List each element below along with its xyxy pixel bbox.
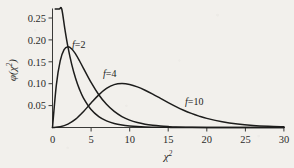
- x-axis-tick-labels: 0 5 10 15 20 25 30: [50, 134, 289, 145]
- x-tick-label: 0: [50, 134, 55, 145]
- y-axis-tick-labels: 0.05 0.10 0.15 0.20 0.25: [28, 13, 46, 112]
- x-tick-label: 10: [124, 134, 135, 145]
- y-tick-label: 0.25: [28, 13, 46, 24]
- curves-group: [53, 8, 284, 128]
- x-axis-title-sup: 2: [169, 149, 173, 158]
- curve-label-f-2-rest: =2: [75, 39, 86, 50]
- chi-square-distribution-figure: 0.05 0.10 0.15 0.20 0.25 0 5 10 15 20 25…: [0, 0, 294, 168]
- curve-label-f-10: f=10: [185, 96, 203, 107]
- y-axis-title-close: ): [6, 59, 19, 64]
- chi-square-plot: 0.05 0.10 0.15 0.20 0.25 0 5 10 15 20 25…: [0, 0, 294, 168]
- curve-f-4: [53, 47, 284, 128]
- curve-label-f-4-rest: =4: [106, 68, 117, 79]
- y-tick-label: 0.10: [28, 78, 46, 89]
- y-axis-ticks: [49, 18, 53, 106]
- curve-f-10: [53, 84, 284, 128]
- x-tick-label: 20: [202, 134, 213, 145]
- curve-annotations: f=2 f=4 f=10: [72, 39, 203, 107]
- y-tick-label: 0.05: [28, 100, 46, 111]
- x-axis-title: χ2: [163, 149, 173, 162]
- curve-f-2: [55, 8, 284, 128]
- curve-label-f-2: f=2: [72, 39, 85, 50]
- y-axis-title-base: φ(χ: [6, 65, 19, 81]
- x-tick-label: 25: [240, 134, 251, 145]
- x-tick-label: 30: [279, 134, 290, 145]
- y-tick-label: 0.20: [28, 35, 46, 46]
- x-tick-label: 5: [88, 134, 93, 145]
- y-axis-title: φ(χ2): [5, 59, 19, 81]
- curve-label-f-4: f=4: [103, 68, 116, 79]
- axes-group: [53, 9, 285, 128]
- x-tick-label: 15: [163, 134, 174, 145]
- y-tick-label: 0.15: [28, 57, 46, 68]
- curve-label-f-10-rest: =10: [188, 96, 204, 107]
